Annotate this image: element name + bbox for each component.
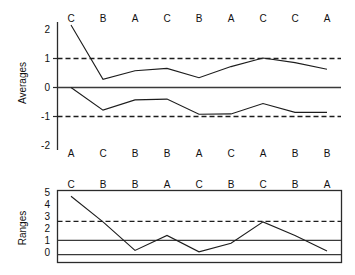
ranges-top-label-8: B [292,179,299,190]
ranges-top-label-9: A [324,179,331,190]
ranges-top-label-4: A [164,179,171,190]
averages-bottom-label-5: A [196,148,203,159]
averages-ytick-1: 1 [44,53,50,64]
ranges-top-label-3: B [132,179,139,190]
ranges-top-label-7: C [259,179,266,190]
ranges-ytick-1: 1 [44,235,50,246]
averages-top-label-2: B [100,13,107,24]
control-chart-svg: Averages 2 1 0 -1 -2 C B [0,0,355,275]
averages-top-label-7: C [259,13,266,24]
averages-bottom-label-9: B [324,148,331,159]
averages-ytick-0: 0 [44,82,50,93]
averages-upper-series [71,25,327,79]
averages-top-label-8: C [291,13,298,24]
averages-top-label-9: A [324,13,331,24]
ranges-top-label-6: B [228,179,235,190]
averages-top-label-5: B [196,13,203,24]
ranges-ytick-2: 2 [44,223,50,234]
ranges-series [71,196,327,252]
averages-bottom-point-labels: A C B B A C A B B [68,148,331,159]
ranges-top-point-labels: C B B A C B C B A [67,179,330,190]
averages-top-label-6: A [228,13,235,24]
averages-bottom-label-3: B [132,148,139,159]
ranges-y-tick-labels: 5 4 3 2 1 0 [44,187,50,258]
control-chart-figure: Averages 2 1 0 -1 -2 C B [0,0,355,275]
ranges-ytick-5: 5 [44,187,50,198]
averages-top-point-labels: C B A C B A C C A [67,13,330,24]
averages-ytick-minus1: -1 [41,111,50,122]
averages-bottom-label-7: A [260,148,267,159]
averages-bottom-label-4: B [164,148,171,159]
averages-ytick-2: 2 [44,24,50,35]
averages-chart: Averages 2 1 0 -1 -2 C B [17,13,341,159]
averages-top-label-4: C [163,13,170,24]
averages-bottom-label-2: C [99,148,106,159]
ranges-ytick-3: 3 [44,211,50,222]
averages-top-label-1: C [67,13,74,24]
ranges-ytick-4: 4 [44,199,50,210]
averages-y-axis-title: Averages [17,62,28,104]
averages-bottom-label-8: B [292,148,299,159]
averages-lower-series [71,88,327,115]
ranges-top-label-5: C [195,179,202,190]
ranges-chart: Ranges 5 4 3 2 1 0 C B B A C B C [17,179,342,263]
ranges-y-axis-title: Ranges [17,211,28,245]
averages-top-label-3: A [132,13,139,24]
ranges-ytick-0: 0 [44,247,50,258]
averages-ytick-minus2: -2 [41,140,50,151]
ranges-top-label-1: C [67,179,74,190]
averages-bottom-label-6: C [227,148,234,159]
averages-y-tick-labels: 2 1 0 -1 -2 [41,24,50,151]
averages-y-tick-marks [53,59,58,117]
averages-bottom-label-1: A [68,148,75,159]
ranges-top-label-2: B [100,179,107,190]
